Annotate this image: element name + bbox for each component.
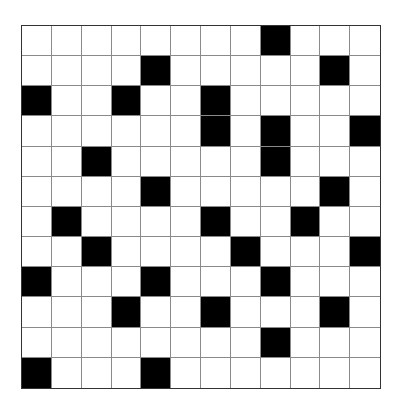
white-cell[interactable] xyxy=(141,147,171,177)
white-cell[interactable] xyxy=(52,297,82,327)
white-cell[interactable] xyxy=(320,207,350,237)
white-cell[interactable] xyxy=(261,358,291,388)
white-cell[interactable] xyxy=(112,56,142,86)
white-cell[interactable] xyxy=(22,56,52,86)
white-cell[interactable] xyxy=(171,358,201,388)
white-cell[interactable] xyxy=(320,267,350,297)
white-cell[interactable] xyxy=(201,56,231,86)
white-cell[interactable] xyxy=(231,147,261,177)
white-cell[interactable] xyxy=(291,267,321,297)
white-cell[interactable] xyxy=(201,267,231,297)
white-cell[interactable] xyxy=(52,26,82,56)
white-cell[interactable] xyxy=(291,177,321,207)
white-cell[interactable] xyxy=(291,237,321,267)
white-cell[interactable] xyxy=(171,177,201,207)
white-cell[interactable] xyxy=(141,26,171,56)
white-cell[interactable] xyxy=(171,26,201,56)
white-cell[interactable] xyxy=(112,237,142,267)
white-cell[interactable] xyxy=(22,116,52,146)
white-cell[interactable] xyxy=(261,237,291,267)
white-cell[interactable] xyxy=(82,297,112,327)
white-cell[interactable] xyxy=(112,26,142,56)
white-cell[interactable] xyxy=(291,297,321,327)
white-cell[interactable] xyxy=(52,267,82,297)
white-cell[interactable] xyxy=(261,207,291,237)
white-cell[interactable] xyxy=(320,328,350,358)
white-cell[interactable] xyxy=(112,267,142,297)
white-cell[interactable] xyxy=(141,116,171,146)
white-cell[interactable] xyxy=(82,177,112,207)
white-cell[interactable] xyxy=(141,328,171,358)
white-cell[interactable] xyxy=(350,267,380,297)
white-cell[interactable] xyxy=(350,26,380,56)
white-cell[interactable] xyxy=(261,56,291,86)
white-cell[interactable] xyxy=(52,56,82,86)
white-cell[interactable] xyxy=(201,358,231,388)
white-cell[interactable] xyxy=(261,297,291,327)
white-cell[interactable] xyxy=(22,237,52,267)
white-cell[interactable] xyxy=(171,116,201,146)
white-cell[interactable] xyxy=(171,86,201,116)
white-cell[interactable] xyxy=(82,207,112,237)
white-cell[interactable] xyxy=(320,147,350,177)
white-cell[interactable] xyxy=(291,56,321,86)
white-cell[interactable] xyxy=(112,147,142,177)
white-cell[interactable] xyxy=(52,328,82,358)
white-cell[interactable] xyxy=(82,358,112,388)
white-cell[interactable] xyxy=(201,177,231,207)
white-cell[interactable] xyxy=(231,328,261,358)
white-cell[interactable] xyxy=(112,358,142,388)
white-cell[interactable] xyxy=(201,26,231,56)
white-cell[interactable] xyxy=(231,358,261,388)
white-cell[interactable] xyxy=(171,237,201,267)
white-cell[interactable] xyxy=(52,237,82,267)
white-cell[interactable] xyxy=(112,177,142,207)
white-cell[interactable] xyxy=(141,297,171,327)
white-cell[interactable] xyxy=(171,56,201,86)
white-cell[interactable] xyxy=(261,86,291,116)
white-cell[interactable] xyxy=(112,116,142,146)
white-cell[interactable] xyxy=(201,147,231,177)
white-cell[interactable] xyxy=(82,56,112,86)
white-cell[interactable] xyxy=(231,177,261,207)
white-cell[interactable] xyxy=(22,177,52,207)
white-cell[interactable] xyxy=(320,237,350,267)
white-cell[interactable] xyxy=(82,116,112,146)
white-cell[interactable] xyxy=(52,116,82,146)
white-cell[interactable] xyxy=(231,26,261,56)
white-cell[interactable] xyxy=(320,86,350,116)
white-cell[interactable] xyxy=(52,86,82,116)
white-cell[interactable] xyxy=(291,26,321,56)
white-cell[interactable] xyxy=(291,86,321,116)
white-cell[interactable] xyxy=(22,207,52,237)
white-cell[interactable] xyxy=(350,297,380,327)
white-cell[interactable] xyxy=(350,207,380,237)
white-cell[interactable] xyxy=(291,328,321,358)
white-cell[interactable] xyxy=(201,237,231,267)
white-cell[interactable] xyxy=(141,86,171,116)
white-cell[interactable] xyxy=(141,237,171,267)
white-cell[interactable] xyxy=(231,56,261,86)
white-cell[interactable] xyxy=(350,147,380,177)
white-cell[interactable] xyxy=(291,147,321,177)
white-cell[interactable] xyxy=(171,297,201,327)
white-cell[interactable] xyxy=(320,116,350,146)
white-cell[interactable] xyxy=(350,56,380,86)
white-cell[interactable] xyxy=(22,328,52,358)
white-cell[interactable] xyxy=(320,358,350,388)
white-cell[interactable] xyxy=(231,297,261,327)
white-cell[interactable] xyxy=(350,86,380,116)
white-cell[interactable] xyxy=(320,26,350,56)
white-cell[interactable] xyxy=(231,207,261,237)
white-cell[interactable] xyxy=(52,358,82,388)
white-cell[interactable] xyxy=(171,267,201,297)
white-cell[interactable] xyxy=(291,116,321,146)
white-cell[interactable] xyxy=(141,207,171,237)
white-cell[interactable] xyxy=(350,328,380,358)
white-cell[interactable] xyxy=(231,116,261,146)
white-cell[interactable] xyxy=(231,86,261,116)
white-cell[interactable] xyxy=(350,358,380,388)
white-cell[interactable] xyxy=(52,177,82,207)
white-cell[interactable] xyxy=(22,147,52,177)
white-cell[interactable] xyxy=(171,207,201,237)
